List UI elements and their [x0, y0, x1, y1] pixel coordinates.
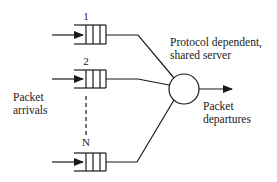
arrivals-label-line2: arrivals [13, 104, 48, 116]
queue-2-label: 2 [83, 55, 89, 67]
shared-server-queue-diagram: 1 2 N Protocol depende [0, 0, 277, 182]
queue-1-link [106, 35, 174, 78]
departures-label-line2: departures [203, 113, 251, 126]
queue-2-link [106, 79, 169, 85]
queue-n-label: N [82, 136, 90, 148]
server-label-line1: Protocol dependent, [170, 36, 262, 49]
departures-label-line1: Packet [203, 100, 234, 112]
queue-n-link [106, 100, 174, 162]
queue-1: 1 [52, 10, 174, 78]
queue-2: 2 [52, 55, 169, 88]
server-label-line2: shared server [170, 49, 231, 61]
queue-1-label: 1 [83, 10, 89, 22]
shared-server-circle [169, 74, 199, 104]
queue-n: N [52, 100, 174, 171]
arrivals-label-line1: Packet [13, 91, 44, 103]
